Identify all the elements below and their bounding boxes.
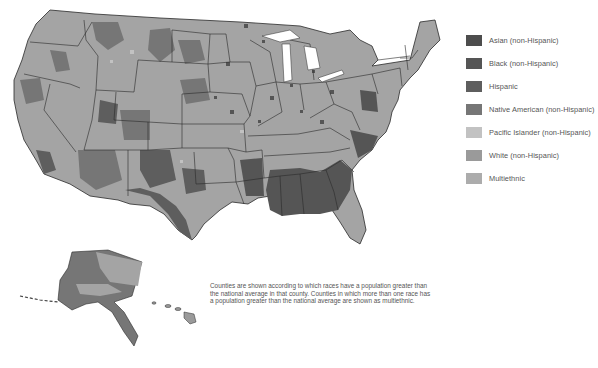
- hawaii: [152, 302, 196, 324]
- legend-swatch-white: [466, 150, 482, 161]
- legend-swatch-black: [466, 58, 482, 69]
- legend-swatch-native-american: [466, 104, 482, 115]
- legend-swatch-hispanic: [466, 81, 482, 92]
- legend-item-multiethnic: Multiethnic: [466, 167, 594, 190]
- alaska: [20, 250, 142, 346]
- lake-michigan: [282, 44, 292, 82]
- legend-label: Hispanic: [489, 82, 518, 91]
- legend-swatch-asian: [466, 35, 482, 46]
- aleutian-islands: [20, 296, 58, 302]
- legend-item-asian: Asian (non-Hispanic): [466, 29, 594, 52]
- legend-label: Asian (non-Hispanic): [489, 36, 559, 45]
- legend-label: Native American (non-Hispanic): [489, 105, 594, 114]
- legend-label: White (non-Hispanic): [489, 151, 559, 160]
- legend-swatch-pacific-islander: [466, 127, 482, 138]
- legend-swatch-multiethnic: [466, 173, 482, 184]
- contiguous-us: [14, 10, 440, 244]
- legend-item-black: Black (non-Hispanic): [466, 52, 594, 75]
- legend-item-pacific-islander: Pacific Islander (non-Hispanic): [466, 121, 594, 144]
- legend-item-hispanic: Hispanic: [466, 75, 594, 98]
- legend-item-native-american: Native American (non-Hispanic): [466, 98, 594, 121]
- legend-label: Pacific Islander (non-Hispanic): [489, 128, 591, 137]
- map-caption: Counties are shown according to which ra…: [210, 282, 435, 305]
- us-mainland-shape: [14, 10, 440, 244]
- legend-label: Black (non-Hispanic): [489, 59, 558, 68]
- legend: Asian (non-Hispanic) Black (non-Hispanic…: [466, 29, 594, 190]
- legend-item-white: White (non-Hispanic): [466, 144, 594, 167]
- legend-label: Multiethnic: [489, 174, 525, 183]
